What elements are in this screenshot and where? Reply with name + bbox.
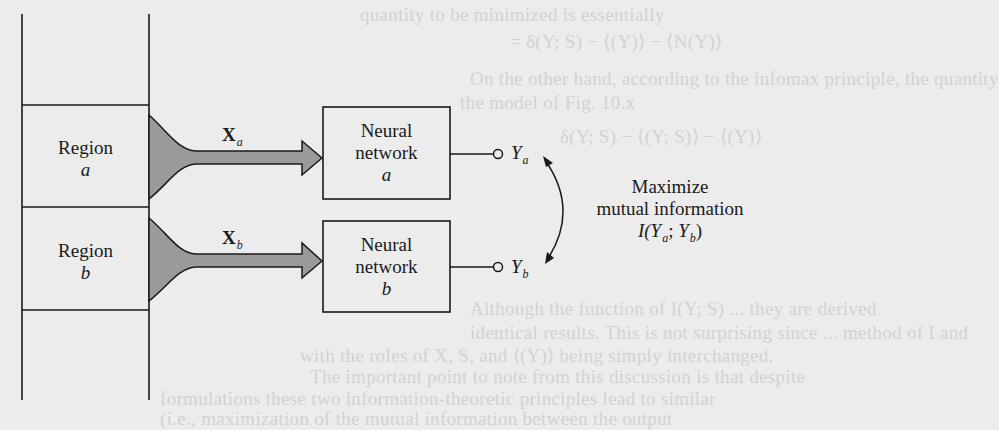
input-label-a: Xa: [222, 124, 243, 148]
objective-line-2: mutual information: [578, 198, 762, 220]
objective-line-1: Maximize: [578, 176, 762, 198]
region-a-label: Region a: [22, 137, 149, 181]
output-terminal-a: [494, 150, 503, 159]
arrowhead-down: [545, 252, 554, 264]
objective-annotation: Maximize mutual information I(Ya; Yb): [578, 176, 762, 244]
network-b-label: Neural network b: [323, 234, 450, 300]
objective-formula: I(Ya; Yb): [578, 220, 762, 244]
output-terminal-b: [494, 263, 503, 272]
output-label-b: Yb: [511, 256, 529, 280]
mutual-info-arrow: [545, 160, 563, 260]
network-a-label: Neural network a: [323, 120, 450, 186]
input-label-b: Xb: [222, 227, 243, 251]
region-b-label: Region b: [22, 240, 149, 284]
arrowhead-up: [543, 156, 553, 167]
output-label-a: Ya: [511, 142, 529, 166]
